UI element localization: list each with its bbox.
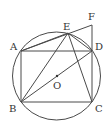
geometry-diagram: A B C D E F O xyxy=(0,0,110,127)
label-e: E xyxy=(63,21,70,32)
label-c: C xyxy=(95,103,103,114)
label-f: F xyxy=(88,11,95,22)
label-b: B xyxy=(9,103,16,114)
label-o: O xyxy=(53,80,61,91)
label-a: A xyxy=(9,41,18,52)
segment-eb xyxy=(21,33,68,102)
segment-ec xyxy=(68,33,92,102)
label-d: D xyxy=(95,41,103,52)
center-point-o xyxy=(56,75,58,77)
